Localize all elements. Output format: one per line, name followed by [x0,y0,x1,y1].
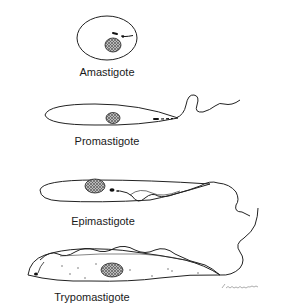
nucleus [101,263,123,277]
label-amastigote: Amastigote [79,66,134,78]
trypomastigote-illustration [28,208,258,281]
label-epimastigote: Epimastigote [71,215,135,227]
amastigote-illustration [77,16,137,60]
nucleus [85,179,105,193]
epimastigote-illustration [40,179,250,216]
nucleus [105,38,121,52]
label-trypomastigote: Trypomastigote [54,291,129,303]
artist-signature [222,284,258,288]
nucleus [106,113,120,124]
promastigote-illustration [45,95,240,125]
kinetoplast [34,273,38,276]
trypanosomatid-life-forms-diagram: Amastigote Promastigote Epimastigote Try… [0,0,281,308]
label-promastigote: Promastigote [75,135,140,147]
diagram-drawings [0,0,281,308]
